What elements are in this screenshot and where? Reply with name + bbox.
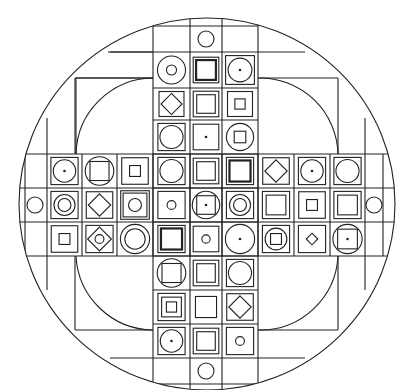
inner-arc	[76, 256, 153, 330]
square-shape	[130, 166, 141, 177]
tile-square-circle-dot	[158, 327, 185, 354]
circle-shape	[229, 194, 250, 215]
tile-square-square-small-square	[158, 293, 185, 320]
diamond-shape	[229, 296, 251, 318]
square-shape	[161, 228, 182, 249]
diamond-shape	[88, 227, 112, 251]
square-shape	[266, 195, 286, 215]
square-shape	[299, 192, 326, 219]
square-shape	[90, 161, 109, 180]
tile-square-square	[193, 158, 219, 184]
inner-arc	[76, 78, 153, 154]
square-shape	[229, 160, 250, 181]
circle-shape	[160, 125, 183, 148]
tile-square-diamond	[86, 192, 113, 219]
tile-square-circle	[158, 123, 185, 150]
tile-square-small-circle	[193, 226, 219, 252]
dot-shape	[239, 69, 242, 72]
tile-square-small-square	[122, 158, 149, 185]
circle-shape	[157, 56, 185, 84]
dot-shape	[170, 340, 173, 343]
tile-square-dot	[193, 124, 219, 150]
circle-shape	[129, 199, 142, 212]
tile-circle-ring-small-circle	[157, 56, 185, 84]
tile-square-diamond-circle	[86, 225, 113, 252]
square-shape	[158, 191, 185, 218]
square-shape	[121, 191, 150, 220]
circle-shape	[58, 199, 71, 212]
tile-square-double-circle	[51, 191, 78, 218]
square-shape	[226, 327, 253, 354]
diamond-shape	[161, 93, 182, 114]
diamond-shape	[88, 194, 110, 216]
circle-shape	[54, 194, 75, 215]
dot-shape	[346, 238, 349, 241]
dot-shape	[63, 170, 66, 173]
circle-shape	[95, 235, 104, 244]
square-shape	[122, 158, 149, 185]
tile-circle-dot	[225, 224, 254, 253]
square-shape	[234, 131, 246, 143]
tile-square-circle-dot	[298, 157, 325, 184]
square-shape	[197, 95, 216, 114]
square-shape	[228, 92, 253, 117]
square-shape	[235, 99, 245, 109]
square-shape	[158, 157, 185, 184]
square-shape	[197, 162, 216, 181]
dot-shape	[311, 170, 314, 173]
tile-square-small-square	[228, 92, 253, 117]
diamond-shape	[265, 160, 287, 182]
tile-square-small-square	[299, 192, 326, 219]
inner-arc	[258, 78, 338, 154]
square-shape	[162, 297, 182, 317]
left-cap-circle-icon	[27, 197, 43, 213]
square-shape	[334, 157, 361, 184]
circle-shape	[166, 65, 176, 75]
tile-square-circle	[226, 259, 253, 286]
tile-square-square	[262, 191, 289, 218]
top-cap-circle-icon	[198, 31, 214, 47]
tile-square-circle	[158, 157, 185, 184]
tile-circle-small-square	[226, 123, 253, 150]
square-shape	[123, 193, 147, 217]
tile-square-plain	[195, 296, 216, 317]
mandala-svg	[0, 0, 415, 390]
square-shape	[197, 264, 216, 283]
circle-shape	[125, 229, 145, 249]
square-shape	[263, 158, 290, 185]
circle-shape	[265, 228, 287, 250]
circle-shape	[202, 235, 210, 243]
square-shape	[262, 225, 289, 252]
circle-shape	[228, 261, 251, 284]
tile-square-diamond	[159, 92, 184, 117]
square-shape	[226, 191, 253, 218]
right-cap-circle-icon	[366, 197, 382, 213]
tile-double-square-circle	[121, 191, 150, 220]
tile-square-thick-square	[158, 225, 185, 252]
tile-square-circle-dot	[226, 56, 255, 85]
tile-square-small-diamond	[298, 225, 325, 252]
tile-square-circle-small-square	[262, 225, 289, 252]
circle-shape	[236, 337, 245, 346]
square-shape	[158, 123, 185, 150]
circle-shape	[160, 159, 183, 182]
square-shape	[166, 302, 176, 312]
square-shape	[298, 225, 325, 252]
tile-square-diamond	[227, 294, 254, 321]
square-shape	[59, 234, 70, 245]
square-shape	[271, 234, 282, 245]
mandala-figure	[0, 0, 415, 390]
inner-arc	[258, 256, 338, 330]
square-shape	[159, 92, 184, 117]
square-shape	[227, 294, 254, 321]
tile-square-thick-square	[226, 157, 253, 184]
dot-shape	[205, 136, 208, 139]
tile-square-circle-dot	[51, 157, 78, 184]
square-shape	[86, 225, 113, 252]
tile-circle-square	[157, 259, 186, 288]
dot-shape	[239, 238, 242, 241]
square-shape	[226, 259, 253, 286]
circle-shape	[226, 123, 253, 150]
square-shape	[162, 263, 181, 282]
tile-square-small-circle	[226, 327, 253, 354]
